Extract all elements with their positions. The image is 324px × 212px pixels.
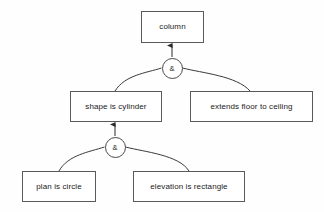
node-extends-floor-to-ceiling-label: extends floor to ceiling bbox=[210, 102, 292, 112]
edge-lower-gate-to-plan-is-circle bbox=[59, 147, 105, 171]
node-elevation-is-rectangle-label: elevation is rectangle bbox=[150, 182, 227, 192]
and-gate-upper[interactable]: & bbox=[162, 58, 183, 79]
node-shape-is-cylinder-label: shape is cylinder bbox=[85, 102, 146, 112]
edge-lower-gate-to-elevation-is-rectangle bbox=[126, 147, 190, 171]
edge-upper-gate-to-shape-is-cylinder bbox=[115, 68, 162, 91]
node-extends-floor-to-ceiling[interactable]: extends floor to ceiling bbox=[190, 91, 313, 122]
node-column[interactable]: column bbox=[141, 11, 204, 43]
and-gate-upper-label: & bbox=[169, 64, 174, 73]
node-shape-is-cylinder[interactable]: shape is cylinder bbox=[70, 91, 162, 122]
and-gate-lower[interactable]: & bbox=[105, 137, 126, 158]
and-gate-lower-label: & bbox=[112, 143, 117, 152]
node-plan-is-circle-label: plan is circle bbox=[36, 182, 81, 192]
node-column-label: column bbox=[159, 22, 185, 32]
node-elevation-is-rectangle[interactable]: elevation is rectangle bbox=[133, 171, 245, 202]
edge-upper-gate-to-extends-floor-to-ceiling bbox=[183, 68, 251, 91]
node-plan-is-circle[interactable]: plan is circle bbox=[22, 171, 96, 202]
diagram-canvas: column shape is cylinder extends floor t… bbox=[0, 0, 324, 212]
